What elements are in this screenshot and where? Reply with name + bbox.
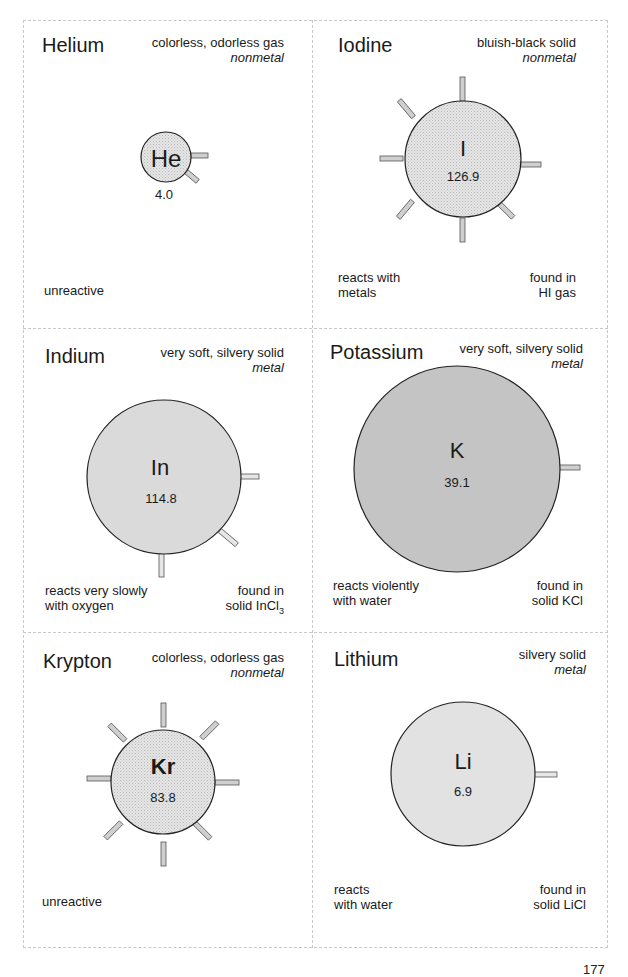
reactivity-text: unreactive [44, 283, 104, 298]
reactivity-text: reacts very slowly with oxygen [45, 583, 148, 613]
state-text: very soft, silvery solid [160, 345, 284, 360]
element-name: Lithium [334, 648, 398, 671]
element-card-indium: Indium very soft, silvery solid metal re… [23, 328, 312, 633]
state-text: colorless, odorless gas [152, 35, 284, 50]
classification-text: metal [160, 360, 284, 375]
classification-text: metal [519, 662, 586, 677]
found-in-text: found insolid InCl3 [226, 583, 284, 619]
found-in-line1: found in [238, 583, 284, 598]
reactivity-text: reacts with metals [338, 270, 400, 300]
page-number: 177 [583, 962, 605, 977]
classification-text: nonmetal [477, 50, 576, 65]
element-description: colorless, odorless gas nonmetal [152, 650, 284, 680]
element-card-lithium: Lithium silvery solid metal reacts with … [313, 632, 602, 937]
element-name: Potassium [330, 341, 423, 364]
subscript: 3 [279, 606, 284, 616]
element-name: Krypton [43, 650, 112, 673]
element-card-potassium: Potassium very soft, silvery solid metal… [313, 328, 602, 633]
reactivity-text: reacts violently with water [333, 578, 419, 608]
reactivity-text: reacts with water [334, 882, 393, 912]
found-in-text: found in solid KCl [532, 578, 583, 608]
element-description: very soft, silvery solid metal [160, 345, 284, 375]
element-description: very soft, silvery solid metal [459, 341, 583, 371]
element-card-iodine: Iodine bluish-black solid nonmetal react… [313, 20, 602, 325]
element-description: bluish-black solid nonmetal [477, 35, 576, 65]
element-name: Indium [45, 345, 105, 368]
classification-text: metal [459, 356, 583, 371]
reactivity-text: unreactive [42, 894, 102, 909]
classification-text: nonmetal [152, 50, 284, 65]
element-description: colorless, odorless gas nonmetal [152, 35, 284, 65]
element-card-helium: Helium colorless, odorless gas nonmetal … [23, 20, 312, 325]
state-text: silvery solid [519, 647, 586, 662]
state-text: bluish-black solid [477, 35, 576, 50]
classification-text: nonmetal [152, 665, 284, 680]
found-in-text: found in HI gas [530, 270, 576, 300]
state-text: colorless, odorless gas [152, 650, 284, 665]
element-name: Helium [42, 34, 104, 57]
found-in-text: found in solid LiCl [533, 882, 586, 912]
found-in-line2: solid InCl [226, 598, 279, 613]
state-text: very soft, silvery solid [459, 341, 583, 356]
element-description: silvery solid metal [519, 647, 586, 677]
element-name: Iodine [338, 34, 393, 57]
element-card-krypton: Krypton colorless, odorless gas nonmetal… [23, 632, 312, 937]
